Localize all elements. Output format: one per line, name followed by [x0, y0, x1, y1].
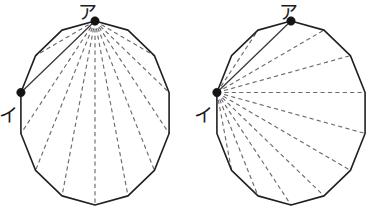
vertex-label-i: イ: [194, 104, 213, 126]
dashed-diagonal: [217, 93, 291, 205]
dashed-diagonal: [217, 30, 258, 92]
vertex-dot-other: [17, 88, 25, 96]
dashed-diagonal: [21, 21, 95, 133]
dashed-diagonal: [217, 30, 324, 92]
figure-canvas: アイ アイ: [0, 0, 384, 218]
vertex-label-a: ア: [78, 1, 97, 23]
right-polygon-panel: アイ: [194, 1, 366, 205]
dashed-diagonal: [95, 21, 154, 170]
dashed-diagonal: [217, 93, 324, 196]
dashed-diagonal: [217, 93, 258, 196]
dashed-diagonal: [36, 21, 95, 170]
dashed-diagonal: [95, 21, 154, 56]
dashed-diagonal: [217, 93, 351, 171]
vertex-label-i: イ: [0, 104, 18, 126]
dashed-diagonal: [217, 93, 365, 134]
dashed-diagonal: [95, 21, 169, 133]
vertex-label-a: ア: [279, 1, 298, 23]
dashed-diagonal: [95, 21, 128, 196]
geometry-figure: アイ アイ: [0, 0, 384, 218]
left-polygon-panel: アイ: [0, 1, 169, 205]
vertex-dot-fan-origin: [213, 88, 221, 96]
